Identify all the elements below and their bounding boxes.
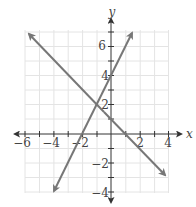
x-tick-label: −4 (42, 136, 60, 150)
y-tick-label: −4 (91, 186, 109, 200)
line-negative-slope-lower (104, 112, 165, 175)
x-tick-label: 4 (164, 136, 172, 150)
line-negative-slope (29, 34, 104, 112)
coordinate-plane: −6 −4 −2 2 4 x 6 4 2 −2 −4 y (0, 0, 196, 207)
x-tick-label: −6 (13, 136, 31, 150)
x-axis: −6 −4 −2 2 4 x (13, 127, 193, 150)
x-axis-label: x (186, 127, 193, 141)
y-axis-label: y (108, 5, 116, 19)
y-tick-label: 6 (98, 39, 106, 53)
y-tick-label: −2 (91, 157, 109, 171)
